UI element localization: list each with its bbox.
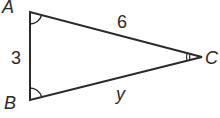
side-label-bc: y bbox=[114, 84, 126, 104]
angle-b-arc bbox=[30, 88, 42, 97]
vertex-label-c: C bbox=[205, 48, 219, 68]
vertex-label-a: A bbox=[1, 0, 14, 17]
triangle-diagram: A B C 3 6 y bbox=[0, 0, 220, 118]
angle-a-arc bbox=[30, 15, 42, 24]
side-label-ab: 3 bbox=[11, 48, 21, 68]
side-label-ac: 6 bbox=[117, 12, 127, 32]
vertex-label-b: B bbox=[4, 93, 16, 113]
